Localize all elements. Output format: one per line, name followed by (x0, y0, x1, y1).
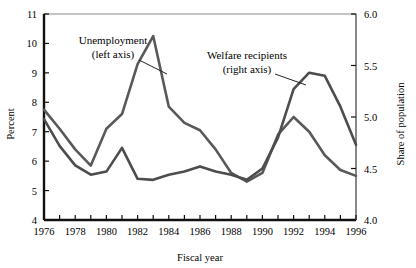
x-axis-ticks (44, 215, 356, 220)
y-tick-label-right: 5.5 (364, 61, 377, 72)
annotation-unemployment-line2: (left axis) (92, 48, 135, 61)
x-tick-label: 1994 (314, 226, 336, 237)
x-tick-label: 1996 (346, 226, 367, 237)
x-axis-tick-labels: 1976197819801982198419861988199019921994… (34, 226, 367, 237)
y-axis-left-title: Percent (5, 108, 16, 140)
annotation-unemployment-line1: Unemployment (79, 34, 147, 46)
y-tick-label-left: 5 (32, 186, 37, 197)
x-tick-label: 1986 (190, 226, 211, 237)
x-tick-label: 1988 (221, 226, 242, 237)
x-axis-title: Fiscal year (177, 252, 223, 263)
x-tick-label: 1980 (96, 226, 117, 237)
x-tick-label: 1990 (252, 226, 273, 237)
y-tick-label-left: 10 (27, 38, 38, 49)
line-chart: 1976197819801982198419861988199019921994… (0, 0, 416, 268)
y-axis-right-title: Share of population (395, 82, 406, 166)
x-tick-label: 1976 (34, 226, 55, 237)
annotation-welfare-line2: (right axis) (223, 63, 272, 76)
y-tick-label-right: 5.0 (364, 112, 377, 123)
y-tick-label-left: 7 (32, 127, 37, 138)
y-tick-label-left: 11 (27, 9, 37, 20)
x-tick-label: 1992 (283, 226, 304, 237)
y-tick-label-right: 6.0 (364, 9, 377, 20)
y-tick-label-right: 4.5 (364, 164, 377, 175)
x-tick-label: 1982 (127, 226, 148, 237)
y-tick-label-left: 9 (32, 68, 37, 79)
chart-container: 1976197819801982198419861988199019921994… (0, 0, 416, 268)
y-tick-label-left: 8 (32, 97, 37, 108)
y-tick-label-right: 4.0 (364, 215, 377, 226)
y-tick-label-left: 4 (32, 215, 38, 226)
annotation-welfare-line1: Welfare recipients (207, 49, 287, 61)
x-tick-label: 1984 (158, 226, 180, 237)
x-tick-label: 1978 (65, 226, 86, 237)
y-tick-label-left: 6 (32, 156, 37, 167)
